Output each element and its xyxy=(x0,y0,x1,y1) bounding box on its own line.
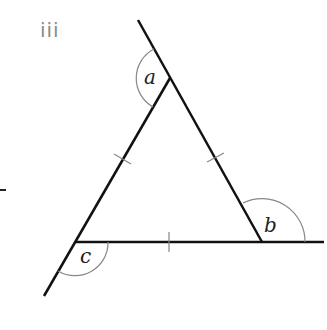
side-ac-extended xyxy=(44,78,170,296)
angle-label-c: c xyxy=(80,244,91,268)
angle-label-a: a xyxy=(144,65,156,89)
angle-label-b: b xyxy=(264,213,277,237)
triangle-diagram: a b c xyxy=(0,0,327,330)
side-ab-extended xyxy=(138,20,262,242)
